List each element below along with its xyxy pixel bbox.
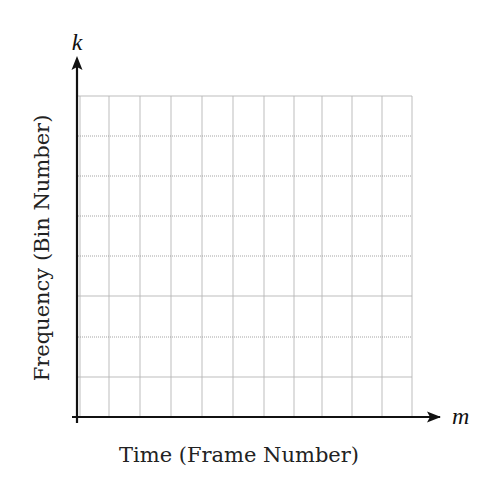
y-variable-label: k <box>72 29 83 55</box>
grid <box>78 96 412 417</box>
spectrogram-grid-diagram: k m Time (Frame Number) Frequency (Bin N… <box>0 0 501 490</box>
x-variable-label: m <box>452 403 469 429</box>
x-axis-title: Time (Frame Number) <box>119 443 359 467</box>
y-axis-title: Frequency (Bin Number) <box>30 115 54 382</box>
